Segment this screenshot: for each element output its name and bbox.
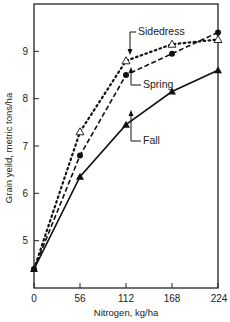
x-tick-label: 56 [74, 293, 86, 304]
spring-marker-icon [77, 152, 83, 158]
x-tick-label: 168 [164, 293, 181, 304]
spring-marker-icon [215, 29, 221, 35]
y-tick-label: 6 [22, 188, 28, 199]
axis-ticks: 05611216822456789 [22, 46, 227, 304]
annotation-leader [131, 115, 141, 141]
y-tick-label: 5 [22, 235, 28, 246]
x-tick-label: 112 [118, 293, 134, 304]
series-label-sidedress: Sidedress [138, 25, 185, 37]
y-tick-label: 9 [22, 46, 28, 57]
arrow-icon [129, 110, 134, 116]
x-tick-label: 224 [211, 293, 228, 304]
spring-marker-icon [169, 51, 175, 57]
annotation-leader [131, 72, 141, 85]
x-axis-title: Nitrogen, kg/ha [94, 307, 159, 318]
spring-marker-icon [123, 72, 129, 78]
sidedress-marker-icon [76, 128, 84, 135]
y-tick-label: 7 [22, 141, 28, 152]
arrow-icon [129, 67, 134, 73]
x-tick-label: 0 [31, 293, 37, 304]
y-axis-title: Grain yeild, metric tons/ha [3, 92, 14, 203]
plot-border [34, 4, 218, 288]
chart: 05611216822456789 SidedressSpringFall Ni… [0, 0, 230, 322]
plot-frame [34, 4, 218, 288]
y-tick-label: 8 [22, 93, 28, 104]
arrow-icon [128, 49, 133, 55]
series-fall-line [34, 70, 218, 269]
annotation-leader [130, 32, 136, 50]
series-lines [30, 29, 222, 272]
series-spring-line [34, 32, 218, 269]
series-label-fall: Fall [143, 134, 160, 146]
fall-marker-icon [214, 66, 222, 73]
series-label-spring: Spring [143, 78, 174, 90]
